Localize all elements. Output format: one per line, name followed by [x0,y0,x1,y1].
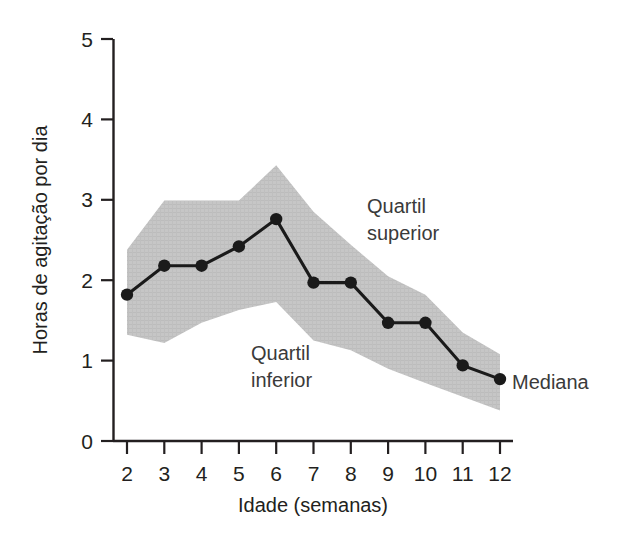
median-data-point [121,288,133,300]
y-tick-label: 0 [81,430,93,453]
median-data-point [233,240,245,252]
y-tick-label: 3 [81,188,93,211]
median-data-point [270,213,282,225]
x-tick-label: 12 [488,462,511,485]
x-tick-label: 7 [308,462,320,485]
median-data-point [195,260,207,272]
x-tick-label: 10 [414,462,437,485]
annotation-quartil-inferior-line1: Quartil [251,342,310,364]
x-tick-label: 5 [233,462,245,485]
median-data-point [158,260,170,272]
annotation-quartil-superior: Quartil superior [367,195,440,244]
annotation-quartil-inferior: Quartil inferior [251,342,312,391]
y-tick-label: 2 [81,269,93,292]
median-data-point [345,276,357,288]
x-axis-title: Idade (semanas) [238,494,388,516]
median-data-point [382,317,394,329]
x-tick-label: 6 [270,462,282,485]
median-data-point [307,276,319,288]
annotation-quartil-superior-line2: superior [367,222,440,244]
annotation-mediana-label: Mediana [512,371,590,393]
x-tick-label: 2 [121,462,133,485]
chart-figure: 012345 23456789101112 Idade (semanas) Ho… [0,0,627,543]
y-tick-label: 1 [81,349,93,372]
x-tick-label: 11 [452,462,474,485]
x-tick-label: 3 [158,462,170,485]
x-tick-label: 8 [345,462,357,485]
x-axis-ticks: 23456789101112 [121,441,512,485]
y-axis-ticks: 012345 [81,28,113,453]
line-chart-with-quartile-band: 012345 23456789101112 Idade (semanas) Ho… [0,0,627,543]
median-data-point [494,373,506,385]
x-tick-label: 4 [196,462,208,485]
y-axis-title: Horas de agitação por dia [29,125,51,355]
annotation-quartil-superior-line1: Quartil [367,195,426,217]
y-tick-label: 5 [81,28,93,51]
x-tick-label: 9 [382,462,394,485]
annotation-mediana: Mediana [512,371,590,393]
median-data-point [457,359,469,371]
annotation-quartil-inferior-line2: inferior [251,369,312,391]
median-data-point [419,317,431,329]
y-tick-label: 4 [81,108,93,131]
